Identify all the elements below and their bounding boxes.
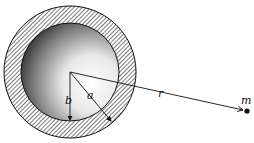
label-m: m [241,94,251,107]
point-mass [244,108,249,113]
label-b: b [65,94,72,107]
label-r: r [158,87,164,100]
label-a: a [87,89,94,102]
shell-diagram: b a r m [0,0,254,143]
